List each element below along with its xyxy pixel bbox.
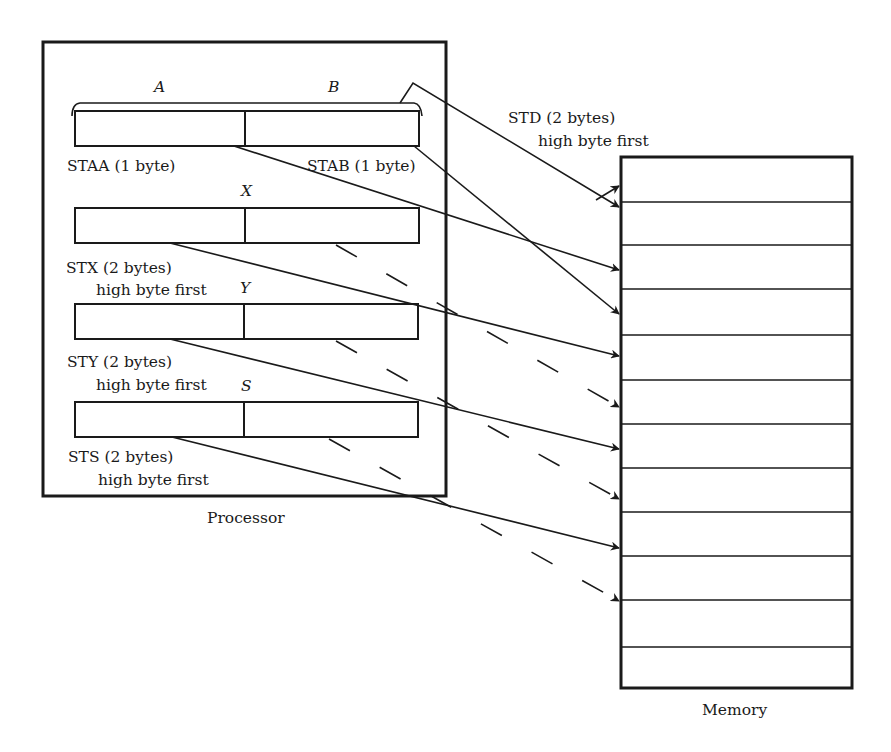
register-x — [75, 208, 419, 243]
register-y-label: Y — [240, 281, 250, 297]
processor-caption: Processor — [207, 511, 285, 527]
std-label-line1: STD (2 bytes) — [508, 111, 615, 127]
register-a-label: A — [154, 80, 165, 96]
sty-label-line2: high byte first — [96, 378, 207, 394]
sty-label-line1: STY (2 bytes) — [67, 355, 172, 371]
sts-label-line1: STS (2 bytes) — [68, 450, 173, 466]
register-x-label: X — [241, 184, 252, 200]
register-y — [75, 304, 418, 339]
register-s-label: S — [241, 379, 252, 395]
stab-label: STAB (1 byte) — [307, 159, 416, 175]
memory-caption: Memory — [702, 703, 767, 719]
memory-block — [621, 157, 852, 688]
sts-low-arrow — [329, 439, 619, 601]
stx-label-line1: STX (2 bytes) — [66, 261, 172, 277]
stx-label-line2: high byte first — [96, 283, 207, 299]
std-label-line2: high byte first — [538, 134, 649, 150]
register-s — [75, 402, 418, 437]
register-b-label: B — [328, 80, 339, 96]
sts-high-arrow — [172, 437, 619, 548]
staa-label: STAA (1 byte) — [67, 159, 175, 175]
sts-label-line2: high byte first — [98, 473, 209, 489]
register-ab — [75, 111, 419, 146]
